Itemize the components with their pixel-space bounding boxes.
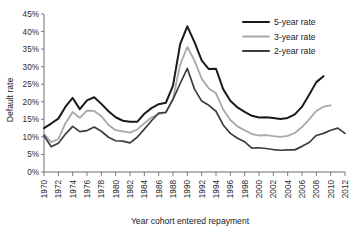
x-tick-label: 1996	[226, 180, 235, 199]
chart-legend: 5-year rate3-year rate2-year rate	[243, 17, 316, 56]
legend-label-3: 2-year rate	[274, 46, 316, 56]
legend-label-1: 5-year rate	[274, 17, 316, 27]
y-tick-label: 10%	[23, 133, 39, 142]
x-tick-label: 1980	[112, 180, 121, 199]
x-tick-label: 1972	[54, 180, 63, 199]
y-axis: 0%5%10%15%20%25%30%35%40%45%	[23, 10, 44, 177]
series-line-3-year-rate	[44, 47, 331, 142]
legend-label-2: 3-year rate	[274, 32, 316, 42]
x-tick-label: 2012	[341, 180, 350, 199]
default-rate-line-chart: 0%5%10%15%20%25%30%35%40%45% 19701972197…	[0, 0, 355, 230]
x-axis-title: Year cohort entered repayment	[131, 216, 250, 226]
y-axis-title: Default rate	[5, 78, 15, 123]
x-tick-label: 2010	[327, 180, 336, 199]
y-tick-label: 5%	[27, 150, 39, 159]
x-tick-label: 1998	[241, 180, 250, 199]
y-tick-label: 30%	[23, 63, 39, 72]
x-tick-label: 2008	[312, 180, 321, 199]
x-tick-label: 1982	[126, 180, 135, 199]
y-tick-label: 40%	[23, 28, 39, 37]
x-tick-label: 2000	[255, 180, 264, 199]
x-tick-label: 1970	[40, 180, 49, 199]
y-tick-label: 25%	[23, 80, 39, 89]
x-tick-label: 2002	[269, 180, 278, 199]
x-axis: 1970197219741976197819801982198419861988…	[40, 172, 350, 198]
y-tick-label: 15%	[23, 115, 39, 124]
x-tick-label: 1988	[169, 180, 178, 199]
y-tick-label: 45%	[23, 10, 39, 19]
x-tick-label: 2004	[284, 180, 293, 199]
series-lines	[44, 26, 345, 150]
x-tick-label: 2006	[298, 180, 307, 199]
x-tick-label: 1994	[212, 180, 221, 199]
x-tick-label: 1974	[69, 180, 78, 199]
y-tick-label: 0%	[27, 168, 39, 177]
x-tick-label: 1992	[198, 180, 207, 199]
x-tick-label: 1978	[97, 180, 106, 199]
x-tick-label: 1976	[83, 180, 92, 199]
y-tick-label: 35%	[23, 45, 39, 54]
y-tick-label: 20%	[23, 98, 39, 107]
chart-canvas: 0%5%10%15%20%25%30%35%40%45% 19701972197…	[0, 0, 355, 230]
x-tick-label: 1986	[155, 180, 164, 199]
x-tick-label: 1990	[183, 180, 192, 199]
x-tick-label: 1984	[140, 180, 149, 199]
